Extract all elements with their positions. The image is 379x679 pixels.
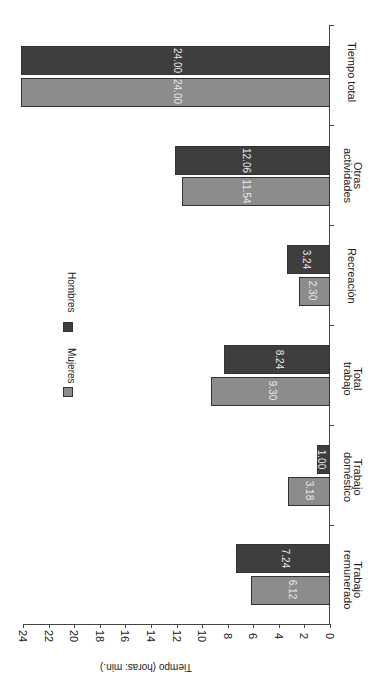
bar-value-label: 3.24 [301,250,312,269]
bar-value-label: 24.00 [172,48,183,73]
category-label-trabajo-domestico: Trabajo doméstico [343,452,363,502]
category-label-total-trabajo: Total trabajo [343,362,363,396]
value-axis-title: Tiempo (horas: min.) [100,662,192,673]
tick-label: 2 [298,628,310,644]
bar-value-label: 3.18 [304,481,315,500]
bar-hombres-otras-actividades [175,146,330,175]
category-label-line: Otras [353,148,363,203]
tick-label: 22 [43,628,55,644]
tick-label: 16 [119,628,131,644]
bar-value-label: 24.00 [172,79,183,104]
category-tick [330,525,334,526]
bar-value-label: 7.24 [280,549,291,568]
bar-value-label: 8.24 [274,350,285,369]
legend-label-mujeres: Mujeres [66,348,77,384]
category-tick [330,25,334,26]
tick-label: 12 [171,628,183,644]
tick-label: 24 [17,628,29,644]
category-label-line: trabajo [343,362,353,396]
category-tick [330,425,334,426]
legend-swatch-hombres [63,322,73,332]
bar-value-label: 9.30 [267,381,278,400]
tick-label: 4 [273,628,285,644]
category-label-line: Tiempo total [347,42,357,102]
bar-mujeres-otras-actividades [182,177,330,206]
category-label-tiempo-total: Tiempo total [347,42,357,102]
legend-label-hombres: Hombres [66,272,77,313]
category-tick [330,325,334,326]
bar-value-label: 6.12 [287,580,298,599]
category-label-trabajo-remunerado: Trabajo remunerado [343,550,363,609]
category-label-line: doméstico [343,452,353,502]
category-label-line: Trabajo [353,452,363,502]
bar-value-label: 11.54 [241,179,252,203]
category-label-line: actividades [343,148,353,203]
category-label-line: Total [353,362,363,396]
tick-label: 20 [68,628,80,644]
tick-label: 6 [247,628,259,644]
tick-label: 14 [145,628,157,644]
bar-value-label: 12.06 [241,148,252,173]
category-tick [330,125,334,126]
legend-swatch-mujeres [63,387,73,397]
category-tick [330,225,334,226]
category-label-line: Recreación [347,248,357,304]
tick-label: 18 [94,628,106,644]
tick-label: 10 [196,628,208,644]
category-label-line: Trabajo [353,550,363,609]
category-label-otras-actividades: Otras actividades [343,148,363,203]
category-label-recreacion: Recreación [347,248,357,304]
bar-value-label: 2.30 [307,281,318,300]
category-label-line: remunerado [343,550,353,609]
tick-label: 8 [222,628,234,644]
tick-label: 0 [324,628,336,644]
bar-value-label: 1.00 [316,450,327,469]
